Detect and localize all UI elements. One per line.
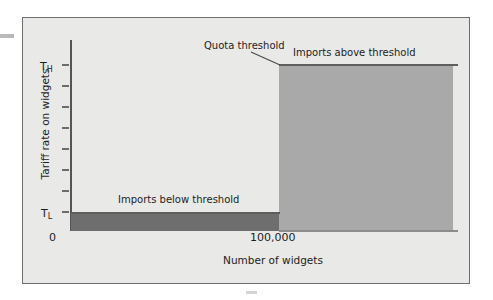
y-axis-tick	[62, 106, 69, 108]
x-tick-label-origin: 0	[49, 232, 56, 243]
area-above-bottom-edge	[279, 230, 458, 232]
y-axis-line	[70, 40, 72, 231]
area-below-top-edge	[71, 212, 280, 214]
x-axis-title: Number of widgets	[173, 254, 373, 266]
area-above-top-edge	[279, 64, 458, 66]
plot-area: TH TL 0 100,000 Tariff rate on widgets N…	[23, 18, 469, 283]
annotation-imports-above-threshold: Imports above threshold	[293, 47, 416, 58]
y-axis-tick	[62, 127, 69, 129]
y-axis-tick	[62, 169, 69, 171]
quota-threshold-leader-line	[251, 52, 281, 66]
y-tick-label-low: TL	[41, 208, 52, 220]
y-axis-tick	[62, 64, 69, 66]
scan-artifact-bottom	[246, 291, 257, 294]
y-axis-tick	[62, 148, 69, 150]
area-imports-below-threshold	[71, 213, 279, 231]
scan-artifact-left	[0, 34, 14, 38]
x-tick-label-threshold: 100,000	[250, 232, 296, 243]
annotation-imports-below-threshold: Imports below threshold	[118, 194, 239, 205]
area-imports-above-threshold	[279, 65, 453, 231]
y-axis-tick	[62, 190, 69, 192]
annotation-quota-threshold: Quota threshold	[204, 40, 285, 51]
y-axis-title: Tariff rate on widgets	[39, 49, 51, 199]
figure-frame: TH TL 0 100,000 Tariff rate on widgets N…	[22, 17, 470, 284]
y-axis-tick	[62, 85, 69, 87]
y-axis-tick	[62, 211, 69, 213]
